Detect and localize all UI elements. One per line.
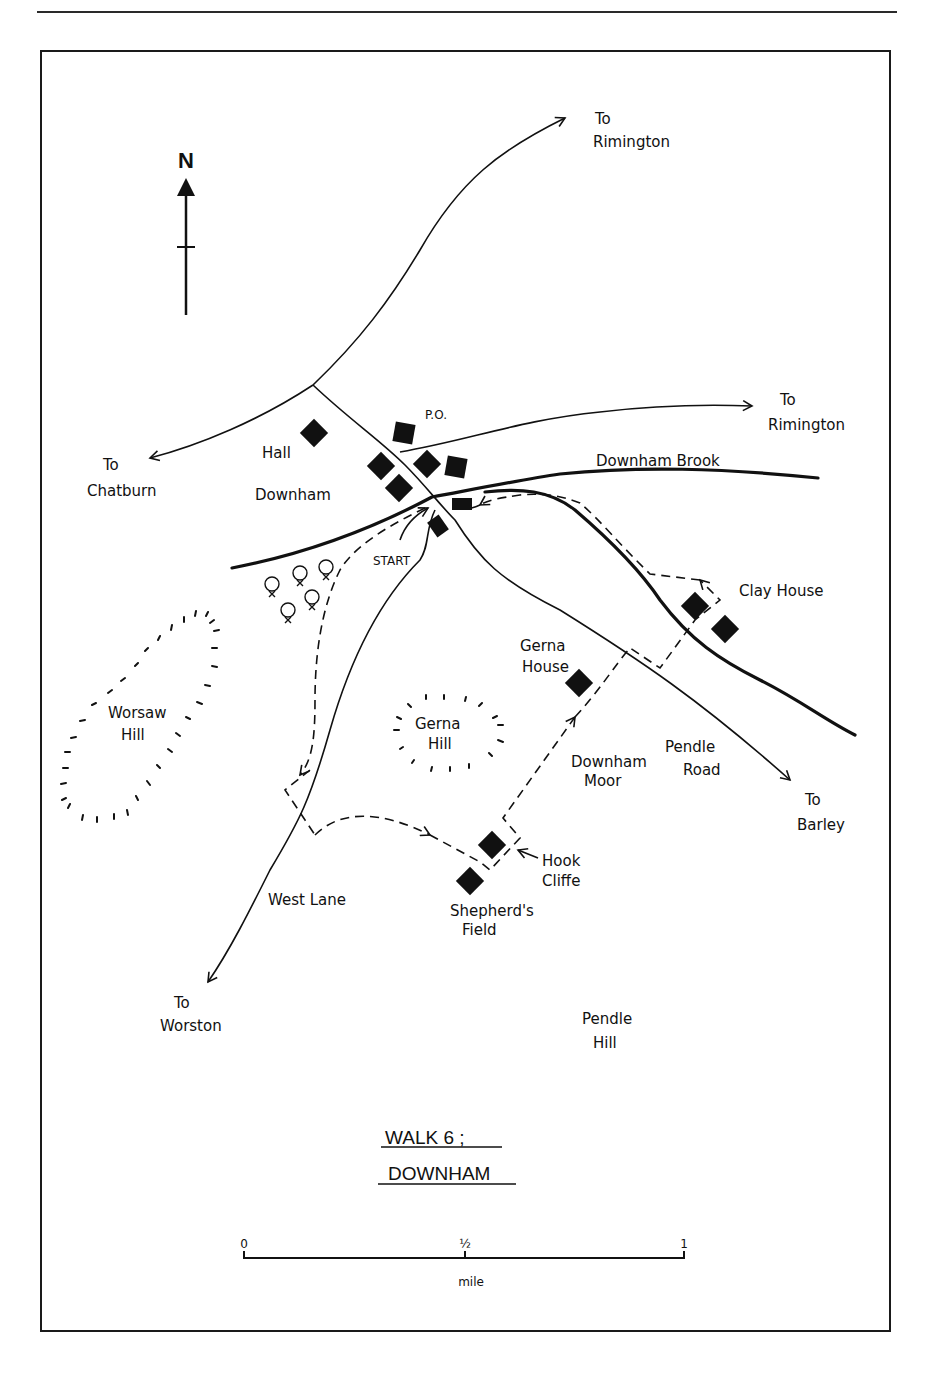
label-to-chatburn-1: To [102,456,119,474]
scale-bar: 0 ½ 1 mile [240,1237,688,1289]
label-to-barley-1: To [804,791,821,809]
gerna-hill-icon [394,695,503,771]
label-to-barley-2: Barley [797,816,845,834]
label-shepherds-field-2: Field [462,921,497,939]
scale-unit: mile [458,1275,484,1289]
label-hook-cliffe-1: Hook [542,852,581,870]
label-to-worston-1: To [173,994,190,1012]
hook-cliffe-pointer [518,850,538,858]
label-to-rimington-north-2: Rimington [593,133,670,151]
roads [150,118,790,982]
building-village-1 [367,452,395,480]
building-hall [300,419,328,447]
building-village-4 [444,455,467,478]
label-west-lane: West Lane [268,891,346,909]
label-start: START [373,554,411,568]
label-worsaw-hill-1: Worsaw [108,704,167,722]
scale-tick-0: 0 [240,1237,248,1251]
label-downham-moor-2: Moor [584,772,622,790]
building-po [392,421,415,444]
pendle-road [313,385,790,780]
label-downham: Downham [255,486,331,504]
label-post-office: P.O. [425,408,447,422]
label-pendle-hill-1: Pendle [582,1010,632,1028]
label-gerna-house-1: Gerna [520,637,565,655]
tree-cluster-icon [265,560,333,623]
label-worsaw-hill-2: Hill [121,726,145,744]
label-to-rimington-east-2: Rimington [768,416,845,434]
label-to-worston-2: Worston [160,1017,222,1035]
label-hall: Hall [262,444,291,462]
label-downham-moor-1: Downham [571,753,647,771]
label-gerna-house-2: House [522,658,569,676]
label-gerna-hill-1: Gerna [415,715,460,733]
north-arrow-icon: N [177,148,195,315]
building-village-3 [413,450,441,478]
building-village-2 [385,474,413,502]
road-to-rimington-east [400,405,752,452]
north-label: N [178,148,194,173]
label-gerna-hill-2: Hill [428,735,452,753]
map-labels: To Rimington To Rimington To Chatburn Ha… [87,110,845,1052]
map-canvas: N [0,0,933,1377]
title-line-2: DOWNHAM [388,1163,490,1184]
label-pendle-road-2: Road [683,761,721,779]
label-pendle-hill-2: Hill [593,1034,617,1052]
title-line-1: WALK 6 ; [385,1127,465,1148]
map-title: WALK 6 ; DOWNHAM [378,1127,516,1184]
building-hook-cliffe [478,831,506,859]
label-downham-brook: Downham Brook [596,452,720,470]
scale-tick-half: ½ [459,1237,471,1251]
label-shepherds-field-1: Shepherd's [450,902,534,920]
building-clay-house-1 [681,592,709,620]
label-pendle-road-1: Pendle [665,738,715,756]
label-to-rimington-north-1: To [594,110,611,128]
map-page: N [0,0,933,1377]
label-clay-house: Clay House [739,582,824,600]
building-village-6 [427,515,449,538]
scale-tick-1: 1 [680,1237,688,1251]
walk-route [285,494,720,870]
building-village-5 [452,498,472,510]
label-hook-cliffe-2: Cliffe [542,872,580,890]
building-shepherds-field [456,867,484,895]
road-to-rimington-north [313,118,565,385]
label-to-rimington-east-1: To [779,391,796,409]
label-to-chatburn-2: Chatburn [87,482,157,500]
building-clay-house-2 [711,615,739,643]
west-lane [208,510,435,982]
building-gerna-house [565,669,593,697]
